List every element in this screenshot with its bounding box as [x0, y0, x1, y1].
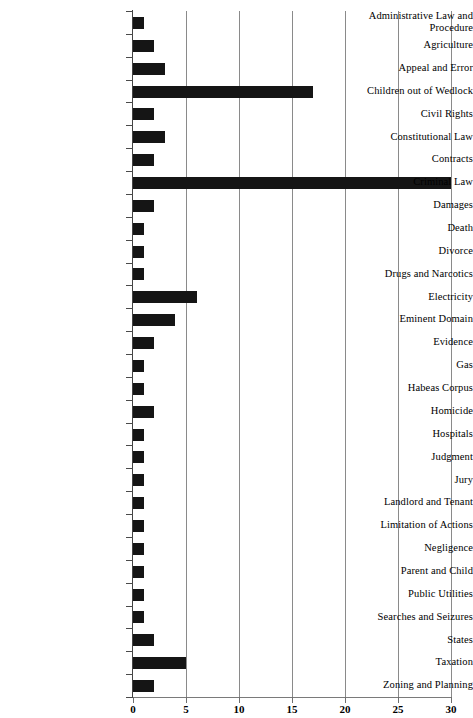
- y-axis-tick: [126, 491, 133, 492]
- category-label-line: Contracts: [347, 153, 473, 164]
- x-axis-line: [126, 697, 452, 698]
- category-label-line: Procedure: [347, 22, 473, 34]
- category-label: Civil Rights: [347, 108, 473, 120]
- y-axis-tick: [126, 377, 133, 378]
- y-axis-tick: [126, 331, 133, 332]
- category-label-line: Agriculture: [347, 39, 473, 50]
- y-axis-tick: [126, 125, 133, 126]
- bar: [133, 291, 197, 303]
- x-axis-tick-label: 0: [113, 703, 153, 716]
- category-label: Gas: [347, 359, 473, 371]
- y-axis-tick: [126, 285, 133, 286]
- category-label: Children out of Wedlock: [347, 85, 473, 97]
- y-axis-tick: [126, 400, 133, 401]
- category-label: Evidence: [347, 336, 473, 348]
- x-axis-tick-label: 10: [219, 703, 259, 716]
- category-label: Landlord and Tenant: [347, 496, 473, 508]
- bar: [133, 63, 165, 75]
- bar: [133, 611, 144, 623]
- category-label-line: Constitutional Law: [347, 131, 473, 142]
- category-label-line: Negligence: [347, 542, 473, 553]
- category-label: Searches and Seizures: [347, 611, 473, 623]
- bar: [133, 86, 313, 98]
- category-label: Drugs and Narcotics: [347, 268, 473, 280]
- y-axis-tick: [126, 628, 133, 629]
- category-label: Appeal and Error: [347, 62, 473, 74]
- category-label-line: Children out of Wedlock: [347, 85, 473, 96]
- y-axis-tick: [126, 651, 133, 652]
- category-label-line: Gas: [347, 359, 473, 370]
- category-label: Taxation: [347, 656, 473, 668]
- category-label: Death: [347, 222, 473, 234]
- y-axis-tick: [126, 674, 133, 675]
- bar: [133, 543, 144, 555]
- category-label: Habeas Corpus: [347, 382, 473, 394]
- y-axis-tick: [126, 537, 133, 538]
- category-label: Public Utilities: [347, 588, 473, 600]
- bar: [133, 17, 144, 29]
- y-axis-tick: [126, 697, 133, 698]
- category-label-line: Landlord and Tenant: [347, 496, 473, 507]
- category-label: Homicide: [347, 405, 473, 417]
- category-label-line: Searches and Seizures: [347, 611, 473, 622]
- bar: [133, 589, 144, 601]
- category-label-line: Limitation of Actions: [347, 519, 473, 530]
- category-label-line: Taxation: [347, 656, 473, 667]
- category-label-line: Electricity: [347, 291, 473, 302]
- category-label: Damages: [347, 199, 473, 211]
- category-label-line: Hospitals: [347, 428, 473, 439]
- bar: [133, 680, 154, 692]
- category-label: Agriculture: [347, 39, 473, 51]
- y-axis-tick: [126, 308, 133, 309]
- x-axis-tick-label: 30: [431, 703, 471, 716]
- bar: [133, 451, 144, 463]
- bar: [133, 360, 144, 372]
- bar: [133, 406, 154, 418]
- category-label: Zoning and Planning: [347, 679, 473, 691]
- category-label-line: Criminal Law: [347, 176, 473, 187]
- category-label-line: Administrative Law and: [347, 10, 473, 22]
- category-label: Contracts: [347, 153, 473, 165]
- category-label-line: Jury: [347, 474, 473, 485]
- bar-chart: Administrative Law andProcedureAgricultu…: [0, 0, 473, 718]
- bar: [133, 383, 144, 395]
- bar: [133, 566, 144, 578]
- category-label: Eminent Domain: [347, 313, 473, 325]
- y-axis-tick: [126, 560, 133, 561]
- y-axis-tick: [126, 606, 133, 607]
- category-label-line: Drugs and Narcotics: [347, 268, 473, 279]
- y-axis-tick: [126, 80, 133, 81]
- bar: [133, 223, 144, 235]
- y-axis-tick: [126, 263, 133, 264]
- category-label: Jury: [347, 474, 473, 486]
- category-label: Divorce: [347, 245, 473, 257]
- category-label-line: Death: [347, 222, 473, 233]
- category-label-line: Public Utilities: [347, 588, 473, 599]
- y-axis-tick: [126, 148, 133, 149]
- gridline-20: [345, 11, 346, 697]
- x-axis-tick-label: 25: [378, 703, 418, 716]
- bar: [133, 40, 154, 52]
- y-axis-tick: [126, 11, 133, 12]
- bar: [133, 314, 175, 326]
- y-axis-tick: [126, 583, 133, 584]
- category-label-line: Homicide: [347, 405, 473, 416]
- bar: [133, 337, 154, 349]
- x-axis-tick-label: 5: [166, 703, 206, 716]
- bar: [133, 268, 144, 280]
- category-label: Limitation of Actions: [347, 519, 473, 531]
- bar: [133, 154, 154, 166]
- category-label-line: States: [347, 634, 473, 645]
- x-axis-tick-label: 20: [325, 703, 365, 716]
- category-label: Electricity: [347, 291, 473, 303]
- category-label-line: Damages: [347, 199, 473, 210]
- category-label: Parent and Child: [347, 565, 473, 577]
- category-label: Negligence: [347, 542, 473, 554]
- category-label: Criminal Law: [347, 176, 473, 188]
- gridline-15: [292, 11, 293, 697]
- bar: [133, 634, 154, 646]
- bar: [133, 520, 144, 532]
- category-label: Constitutional Law: [347, 131, 473, 143]
- y-axis-tick: [126, 354, 133, 355]
- bar: [133, 657, 186, 669]
